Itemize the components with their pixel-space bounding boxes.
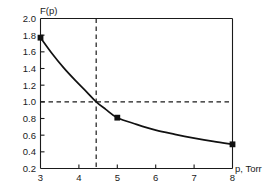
- y-tick-label: 0.6: [23, 130, 36, 141]
- x-tick-label: 8: [230, 172, 235, 183]
- x-tick-label: 7: [191, 172, 196, 183]
- y-tick-label: 1.6: [23, 46, 36, 57]
- x-tick-label: 4: [76, 172, 81, 183]
- y-tick-label: 2.0: [23, 13, 36, 24]
- x-axis-title: p, Torr: [235, 163, 262, 174]
- y-tick-label: 0.4: [23, 146, 36, 157]
- y-axis-title: F(p): [40, 5, 57, 16]
- x-tick-label: 5: [115, 172, 120, 183]
- y-tick-label: 1.8: [23, 30, 36, 41]
- data-point-marker: [230, 141, 236, 147]
- data-point-marker: [114, 115, 120, 121]
- chart-figure: F(p) 2.01.81.61.41.21.00.80.60.40.2 3456…: [0, 0, 275, 194]
- y-tick-label: 1.0: [23, 96, 36, 107]
- chart-background: [0, 0, 275, 194]
- x-axis-title-label: p, Torr: [235, 163, 262, 174]
- y-axis-title-label: F(p): [40, 5, 57, 16]
- y-tick-label: 0.8: [23, 113, 36, 124]
- y-tick-label: 1.2: [23, 80, 36, 91]
- data-point-marker: [38, 35, 44, 41]
- y-tick-label: 0.2: [23, 163, 36, 174]
- x-tick-label: 3: [38, 172, 43, 183]
- x-tick-label: 6: [153, 172, 158, 183]
- chart-canvas: F(p) 2.01.81.61.41.21.00.80.60.40.2 3456…: [0, 0, 275, 194]
- y-tick-label: 1.4: [23, 63, 36, 74]
